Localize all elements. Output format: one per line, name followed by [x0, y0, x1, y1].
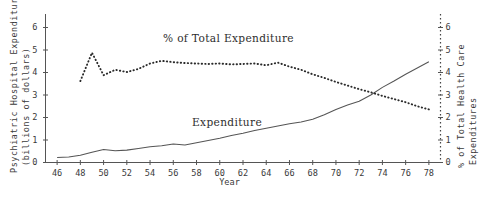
x-tick-label-50: 50 [93, 168, 115, 178]
x-tick-label-64: 64 [255, 168, 277, 178]
x-tick-label-62: 62 [232, 168, 254, 178]
left-tick-label-6: 6 [24, 22, 38, 32]
left-axis-title-line2: (billions of dollars) [21, 48, 31, 167]
right-tick-label-6: 6 [446, 22, 451, 32]
expenditure-series-label: Expenditure [192, 116, 262, 128]
left-tick-label-5: 5 [24, 45, 38, 55]
x-tick-label-66: 66 [278, 168, 300, 178]
x-tick-label-72: 72 [348, 168, 370, 178]
chart-figure: Psychiatric Hospital Expenditures (billi… [0, 0, 483, 219]
x-tick-label-78: 78 [418, 168, 440, 178]
x-tick-label-76: 76 [395, 168, 417, 178]
series-line-expenditure [57, 62, 429, 158]
left-tick-label-1: 1 [24, 135, 38, 145]
right-axis-title-line1: % of Total Health Care [456, 44, 466, 168]
x-tick-label-74: 74 [371, 168, 393, 178]
x-tick-label-54: 54 [139, 168, 161, 178]
x-tick-label-46: 46 [46, 168, 68, 178]
x-axis-title: Year [0, 177, 483, 187]
right-tick-label-3: 3 [446, 90, 451, 100]
right-tick-label-0: 0 [446, 157, 451, 167]
right-tick-label-1: 1 [446, 135, 451, 145]
x-tick-label-58: 58 [186, 168, 208, 178]
left-tick-label-0: 0 [24, 157, 38, 167]
x-axis-title-text: Year [219, 177, 240, 187]
right-axis-title-line2: Expenditures [468, 97, 478, 165]
right-tick-label-5: 5 [446, 45, 451, 55]
x-tick-label-70: 70 [325, 168, 347, 178]
right-tick-label-4: 4 [446, 67, 451, 77]
x-tick-label-68: 68 [302, 168, 324, 178]
left-tick-label-2: 2 [24, 112, 38, 122]
left-tick-label-4: 4 [24, 67, 38, 77]
x-tick-label-48: 48 [69, 168, 91, 178]
right-tick-label-2: 2 [446, 112, 451, 122]
left-tick-label-3: 3 [24, 90, 38, 100]
left-axis-title-line1: Psychiatric Hospital Expenditures [9, 0, 19, 173]
x-tick-label-56: 56 [162, 168, 184, 178]
x-tick-label-60: 60 [209, 168, 231, 178]
pct-series-label: % of Total Expenditure [163, 32, 294, 44]
x-tick-label-52: 52 [116, 168, 138, 178]
series-line-pct-total-expenditure [80, 53, 429, 110]
